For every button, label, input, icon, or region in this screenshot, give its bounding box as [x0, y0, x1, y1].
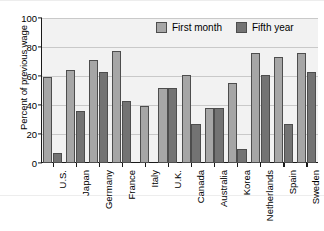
x-tick-mark	[168, 163, 169, 167]
x-axis-label: Sweden	[310, 170, 321, 204]
bars-layer	[41, 18, 318, 163]
x-tick-mark	[306, 163, 307, 167]
bar	[158, 88, 167, 163]
bar-group	[295, 18, 318, 163]
x-axis-label: Korea	[241, 170, 252, 195]
bar	[140, 106, 149, 163]
bar	[274, 57, 283, 163]
bar	[228, 83, 237, 163]
bar-group	[110, 18, 133, 163]
bar	[251, 53, 260, 163]
bar-group	[133, 18, 156, 163]
y-tick-label-100: 100	[3, 13, 37, 24]
legend-label-fifth-year: Fifth year	[252, 22, 294, 33]
x-tick-mark	[145, 163, 146, 167]
legend-entry-first-month: First month	[156, 22, 222, 33]
legend-entry-fifth-year: Fifth year	[236, 22, 294, 33]
bar-group	[41, 18, 64, 163]
x-tick-mark	[260, 163, 261, 167]
x-axis-label: Netherlands	[264, 170, 275, 221]
bar	[66, 70, 75, 163]
x-tick-mark	[283, 163, 284, 167]
y-tick-label-40: 40	[3, 100, 37, 111]
x-tick-mark	[191, 163, 192, 167]
x-tick-mark	[99, 163, 100, 167]
bar-group	[272, 18, 295, 163]
x-tick-mark	[214, 163, 215, 167]
bar-group	[203, 18, 226, 163]
y-tick-label-80: 80	[3, 42, 37, 53]
bar	[297, 53, 306, 163]
x-axis-label: Germany	[103, 170, 114, 209]
x-axis-label: U.K.	[172, 170, 183, 188]
y-tick-label-0: 0	[3, 158, 37, 169]
bar	[89, 60, 98, 163]
page-rule-top	[0, 0, 324, 1]
y-tick-label-20: 20	[3, 129, 37, 140]
chart-legend: First month Fifth year	[156, 22, 294, 33]
bar	[168, 88, 177, 163]
bar	[191, 124, 200, 163]
bar-group	[180, 18, 203, 163]
x-axis-label: U.S.	[57, 170, 68, 188]
bar	[122, 101, 131, 163]
bar	[99, 72, 108, 163]
bar-group	[226, 18, 249, 163]
bar	[214, 108, 223, 163]
bar	[112, 51, 121, 163]
bar	[53, 153, 62, 163]
bar	[307, 72, 316, 163]
bar	[284, 124, 293, 163]
bar	[237, 149, 246, 164]
page-rule-bottom	[0, 195, 324, 196]
bar	[76, 111, 85, 163]
bar-group	[156, 18, 179, 163]
legend-label-first-month: First month	[172, 22, 222, 33]
bar	[182, 75, 191, 163]
bar	[43, 77, 52, 163]
bar-group	[87, 18, 110, 163]
x-tick-mark	[76, 163, 77, 167]
x-axis-label: Canada	[195, 170, 206, 203]
legend-swatch-first-month	[156, 22, 167, 33]
bar-group	[249, 18, 272, 163]
x-axis-label: France	[126, 170, 137, 200]
bar	[261, 75, 270, 163]
bar-group	[64, 18, 87, 163]
y-tick-label-60: 60	[3, 71, 37, 82]
bar-chart-figure: Percent of previous wage 020406080100 U.…	[0, 0, 324, 231]
x-tick-mark	[53, 163, 54, 167]
x-axis-label: Spain	[287, 170, 298, 194]
x-tick-mark	[237, 163, 238, 167]
x-axis-label: Japan	[80, 170, 91, 196]
x-tick-mark	[122, 163, 123, 167]
x-axis-label: Italy	[149, 170, 160, 187]
x-axis-label: Australia	[218, 170, 229, 207]
bar	[205, 108, 214, 163]
legend-swatch-fifth-year	[236, 22, 247, 33]
